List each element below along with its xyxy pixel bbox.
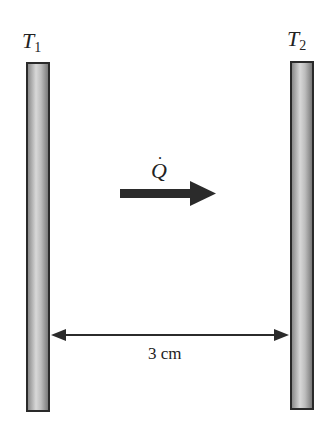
distance-label: 3 cm <box>148 344 182 364</box>
diagram-arrows <box>0 0 334 438</box>
dimension-arrow-icon <box>51 329 289 341</box>
heat-flow-arrow-icon <box>120 181 216 206</box>
